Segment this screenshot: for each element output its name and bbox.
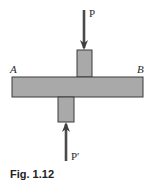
lower-block <box>58 97 74 122</box>
shear-diagram: P A B P′ Fig. 1.12 <box>0 0 151 183</box>
end-label-b: B <box>137 63 144 75</box>
force-label-p-prime: P′ <box>71 150 80 162</box>
figure-caption: Fig. 1.12 <box>10 168 54 180</box>
force-arrow-p-icon <box>80 10 88 50</box>
end-label-a: A <box>10 63 17 75</box>
upper-block <box>77 50 92 77</box>
force-arrow-p-prime-icon <box>62 122 70 161</box>
horizontal-member <box>12 77 143 97</box>
force-label-p: P <box>89 7 95 19</box>
